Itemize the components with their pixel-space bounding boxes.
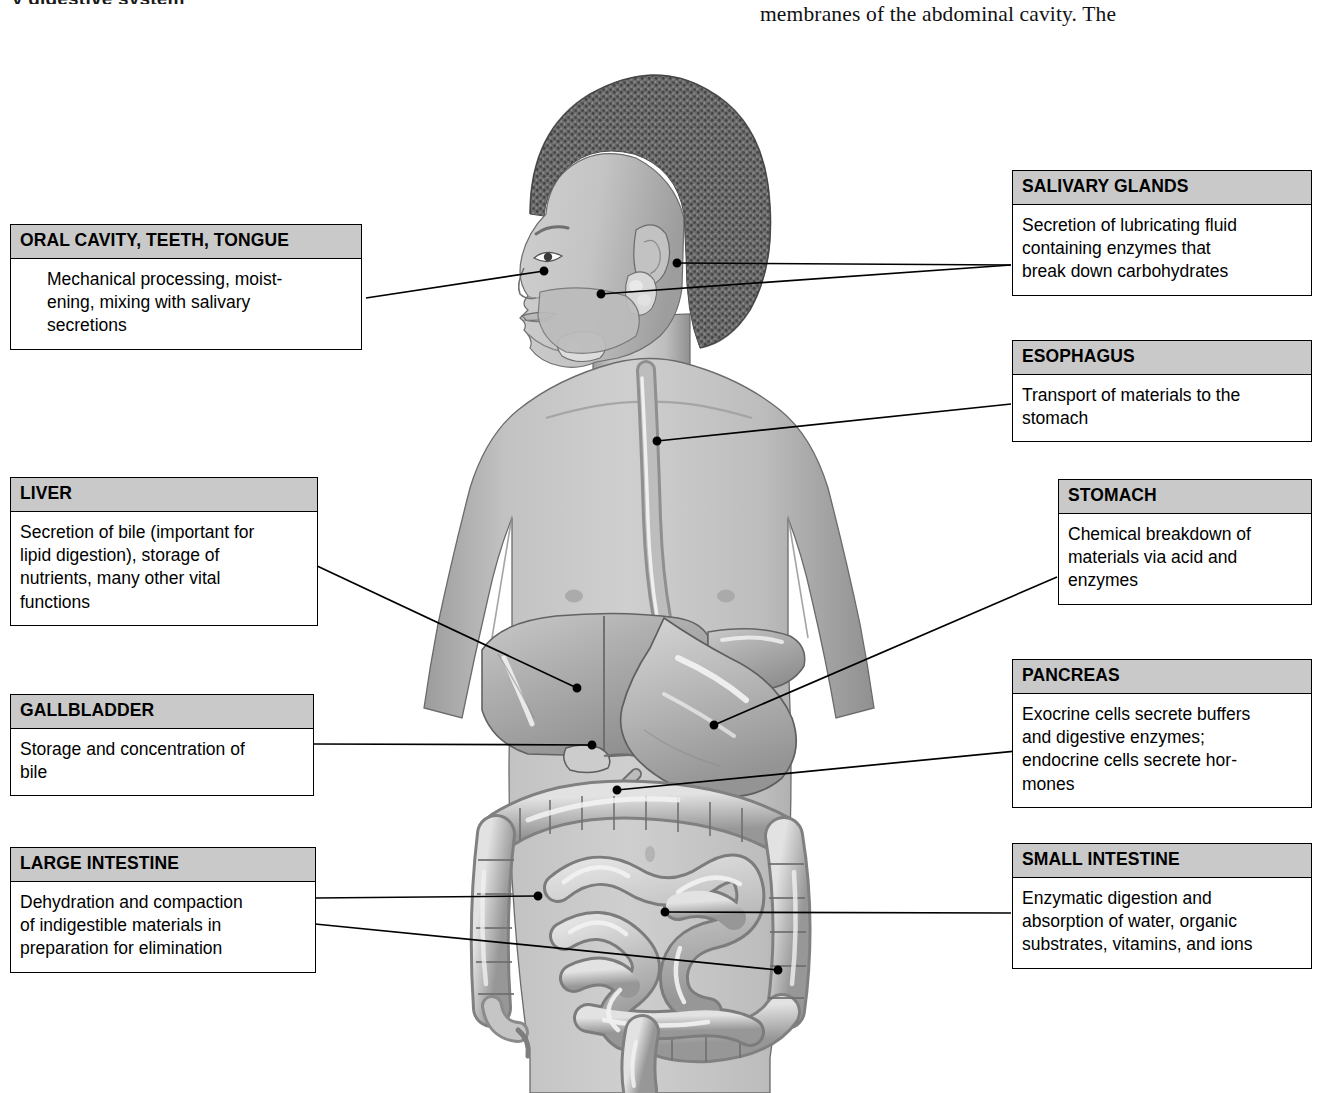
callout-stomach-title: STOMACH <box>1058 479 1312 514</box>
callout-liver-body: Secretion of bile (important for lipid d… <box>10 512 318 627</box>
callout-pancreas-title: PANCREAS <box>1012 659 1312 694</box>
callout-gallbladder[interactable]: GALLBLADDER Storage and concentration of… <box>10 694 314 796</box>
callout-small-intestine-body: Enzymatic digestion and absorption of wa… <box>1012 878 1312 969</box>
callout-oral-cavity[interactable]: ORAL CAVITY, TEETH, TONGUE Mechanical pr… <box>10 224 362 350</box>
callout-oral-cavity-body: Mechanical processing, moist- ening, mix… <box>10 259 362 350</box>
callout-oral-cavity-title: ORAL CAVITY, TEETH, TONGUE <box>10 224 362 259</box>
digestive-system-illustration <box>378 18 938 1093</box>
oral-cavity <box>538 288 639 353</box>
callout-pancreas-body: Exocrine cells secrete buffers and diges… <box>1012 694 1312 809</box>
callout-salivary-glands-body: Secretion of lubricating fluid containin… <box>1012 205 1312 296</box>
head-profile <box>519 75 771 367</box>
callout-stomach[interactable]: STOMACH Chemical breakdown of materials … <box>1058 479 1312 605</box>
callout-salivary-glands[interactable]: SALIVARY GLANDS Secretion of lubricating… <box>1012 170 1312 296</box>
callout-large-intestine-title: LARGE INTESTINE <box>10 847 316 882</box>
callout-pancreas[interactable]: PANCREAS Exocrine cells secrete buffers … <box>1012 659 1312 808</box>
figure-page: y digestive system membranes of the abdo… <box>0 0 1318 1093</box>
callout-large-intestine[interactable]: LARGE INTESTINE Dehydration and compacti… <box>10 847 316 973</box>
callout-liver-title: LIVER <box>10 477 318 512</box>
callout-small-intestine[interactable]: SMALL INTESTINE Enzymatic digestion and … <box>1012 843 1312 969</box>
rectum <box>632 1032 642 1090</box>
callout-esophagus-title: ESOPHAGUS <box>1012 340 1312 375</box>
callout-large-intestine-body: Dehydration and compaction of indigestib… <box>10 882 316 973</box>
callout-small-intestine-title: SMALL INTESTINE <box>1012 843 1312 878</box>
callout-gallbladder-title: GALLBLADDER <box>10 694 314 729</box>
callout-stomach-body: Chemical breakdown of materials via acid… <box>1058 514 1312 605</box>
callout-liver[interactable]: LIVER Secretion of bile (important for l… <box>10 477 318 626</box>
running-head: y digestive system <box>12 0 312 4</box>
callout-gallbladder-body: Storage and concentration of bile <box>10 729 314 797</box>
callout-esophagus-body: Transport of materials to the stomach <box>1012 375 1312 443</box>
callout-esophagus[interactable]: ESOPHAGUS Transport of materials to the … <box>1012 340 1312 442</box>
callout-salivary-glands-title: SALIVARY GLANDS <box>1012 170 1312 205</box>
